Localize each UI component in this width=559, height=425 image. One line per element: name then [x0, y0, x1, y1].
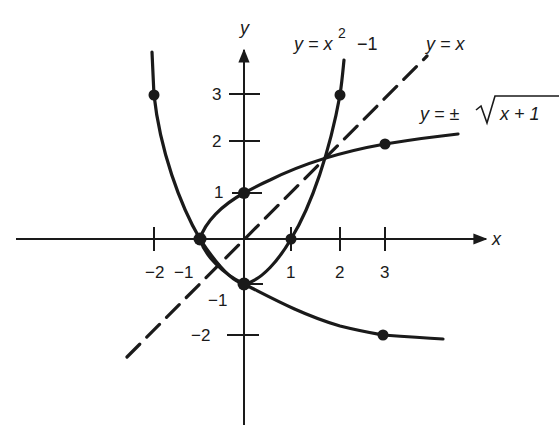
y-tick-label: 3: [212, 85, 221, 104]
point-marker: [238, 187, 250, 199]
point-marker: [149, 90, 160, 101]
y-tick-label: 2: [212, 132, 221, 151]
svg-text:x + 1: x + 1: [499, 104, 540, 124]
point-marker: [286, 234, 297, 245]
svg-text:y = ±: y = ±: [418, 104, 460, 124]
x-tick-label: −2: [145, 263, 164, 282]
x-tick-label: 3: [380, 263, 389, 282]
x-tick-label: −1: [174, 263, 193, 282]
y-tick-label: −1: [208, 291, 227, 310]
identity-label: y = x: [424, 34, 466, 54]
x-tick-label: 1: [286, 263, 295, 282]
svg-text:−1: −1: [357, 34, 378, 54]
y-tick-label: −2: [191, 326, 210, 345]
y-axis-label: y: [238, 18, 250, 38]
sqrt-label: y = ± x + 1: [418, 96, 559, 124]
svg-text:2: 2: [338, 25, 346, 41]
identity-line: [127, 56, 427, 357]
parabola-label: y = x 2 −1: [292, 25, 378, 54]
svg-text:y = x: y = x: [292, 34, 334, 54]
point-marker: [194, 233, 207, 246]
sqrt-curve: [200, 134, 458, 339]
point-marker: [378, 330, 389, 341]
x-axis-label: x: [491, 229, 502, 249]
point-marker: [238, 278, 251, 291]
x-tick-label: 2: [335, 263, 344, 282]
graph-figure: −2 −1 1 2 3 3 2 1 −1 −2 x y y = x 2 −1 y…: [0, 0, 559, 425]
point-marker: [335, 90, 346, 101]
point-marker: [380, 139, 391, 150]
y-tick-label: 1: [214, 183, 223, 202]
